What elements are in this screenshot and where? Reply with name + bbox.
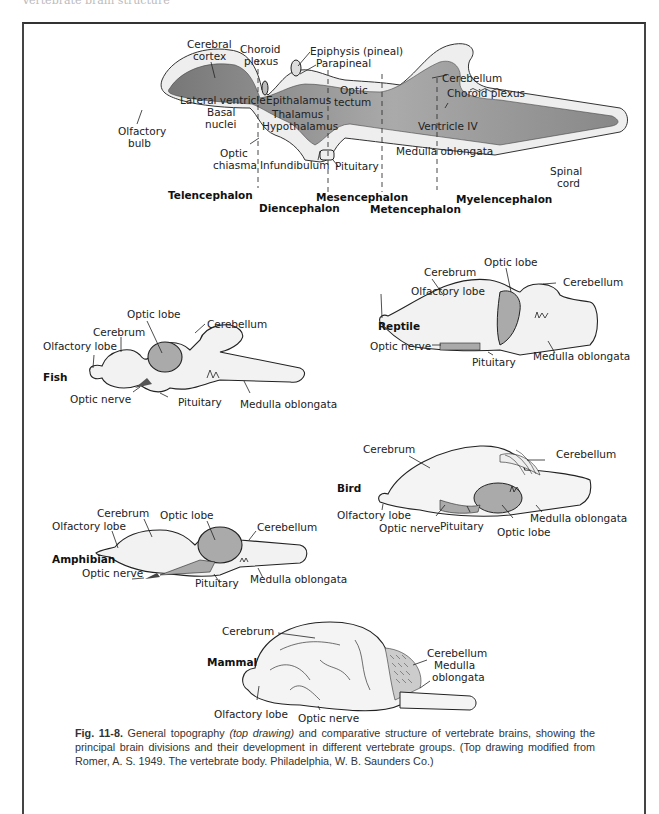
label-epiphysis: Epiphysis (pineal) bbox=[310, 45, 403, 57]
fish-label-cerebrum: Cerebrum bbox=[93, 326, 145, 338]
label-medulla-oblongata: Medulla oblongata bbox=[396, 145, 493, 157]
fish-label-medulla: Medulla oblongata bbox=[240, 398, 337, 410]
bird-brain: Cerebrum Cerebellum Bird Olfactory lobe … bbox=[337, 443, 627, 538]
label-lateral-ventricle: Lateral ventricle bbox=[180, 94, 266, 106]
svg-text:chiasma: chiasma bbox=[213, 159, 257, 171]
bird-label-olfactory-lobe: Olfactory lobe bbox=[337, 509, 411, 521]
svg-text:tectum: tectum bbox=[334, 96, 371, 108]
fish-brain: Optic lobe Cerebrum Cerebellum Olfactory… bbox=[43, 308, 337, 410]
fish-label-olfactory-lobe: Olfactory lobe bbox=[43, 340, 117, 352]
division-telencephalon: Telencephalon bbox=[168, 189, 253, 201]
reptile-label-medulla: Medulla oblongata bbox=[533, 350, 630, 362]
mammal-brain: Cerebrum Mammal Cerebellum Medulla oblon… bbox=[207, 622, 487, 724]
reptile-label-cerebrum: Cerebrum bbox=[424, 266, 476, 278]
label-parapineal: Parapineal bbox=[316, 57, 371, 69]
division-metencephalon: Metencephalon bbox=[370, 203, 461, 215]
fish-label-optic-lobe: Optic lobe bbox=[127, 308, 181, 320]
fish-label-pituitary: Pituitary bbox=[178, 396, 222, 408]
amphibian-title: Amphibian bbox=[52, 553, 115, 565]
mammal-title: Mammal bbox=[207, 656, 257, 668]
reptile-label-pituitary: Pituitary bbox=[472, 356, 516, 368]
svg-text:plexus: plexus bbox=[244, 55, 278, 67]
mammal-label-olfactory-lobe: Olfactory lobe bbox=[214, 708, 288, 720]
label-spinal-cord: Spinal bbox=[550, 165, 582, 177]
amphibian-label-optic-nerve: Optic nerve bbox=[82, 567, 143, 579]
mammal-label-cerebellum: Cerebellum bbox=[427, 647, 487, 659]
svg-text:cord: cord bbox=[557, 177, 580, 189]
label-cerebellum: Cerebellum bbox=[442, 72, 502, 84]
amphibian-label-cerebrum: Cerebrum bbox=[97, 507, 149, 519]
svg-text:bulb: bulb bbox=[128, 137, 151, 149]
bird-label-cerebrum: Cerebrum bbox=[363, 443, 415, 455]
mammal-label-medulla: Medulla bbox=[434, 659, 475, 671]
division-mesencephalon: Mesencephalon bbox=[316, 191, 408, 203]
label-basal-nuclei: Basal bbox=[207, 106, 235, 118]
amphibian-label-optic-lobe: Optic lobe bbox=[160, 509, 214, 521]
amphibian-label-medulla: Medulla oblongata bbox=[250, 573, 347, 585]
division-diencephalon: Diencephalon bbox=[259, 202, 340, 214]
bird-label-cerebellum: Cerebellum bbox=[556, 448, 616, 460]
label-optic-tectum: Optic bbox=[340, 84, 368, 96]
fish-label-cerebellum: Cerebellum bbox=[207, 318, 267, 330]
top-sagittal-brain: Cerebral cortex Choroid plexus Epiphysis… bbox=[118, 38, 628, 215]
reptile-brain: Cerebrum Olfactory lobe Optic lobe Cereb… bbox=[370, 256, 630, 368]
figure-caption: Fig. 11-8. General topography (top drawi… bbox=[75, 726, 595, 768]
mammal-label-optic-nerve: Optic nerve bbox=[298, 712, 359, 724]
amphibian-brain: Cerebrum Optic lobe Olfactory lobe Cereb… bbox=[52, 507, 347, 589]
amphibian-label-pituitary: Pituitary bbox=[195, 577, 239, 589]
fish-label-optic-nerve: Optic nerve bbox=[70, 393, 131, 405]
label-ventricle-iv: Ventricle IV bbox=[418, 120, 478, 132]
bird-title: Bird bbox=[337, 482, 361, 494]
svg-text:nuclei: nuclei bbox=[205, 118, 236, 130]
fish-title: Fish bbox=[43, 371, 68, 383]
mammal-label-cerebrum: Cerebrum bbox=[222, 625, 274, 637]
label-choroid-plexus: Choroid bbox=[240, 43, 281, 55]
reptile-label-optic-nerve: Optic nerve bbox=[370, 340, 431, 352]
reptile-label-optic-lobe: Optic lobe bbox=[484, 256, 538, 268]
label-hypothalamus: Hypothalamus bbox=[262, 120, 338, 132]
bird-label-pituitary: Pituitary bbox=[440, 520, 484, 532]
svg-text:oblongata: oblongata bbox=[432, 671, 485, 683]
division-myelencephalon: Myelencephalon bbox=[456, 193, 552, 205]
reptile-label-olfactory-lobe: Olfactory lobe bbox=[411, 285, 485, 297]
reptile-title: Reptile bbox=[378, 320, 420, 332]
label-thalamus: Thalamus bbox=[271, 108, 323, 120]
label-cerebral-cortex: Cerebral bbox=[187, 38, 232, 50]
figure-number: Fig. 11-8. bbox=[75, 727, 123, 739]
label-infundibulum: Infundibulum bbox=[260, 159, 329, 171]
reptile-label-cerebellum: Cerebellum bbox=[563, 276, 623, 288]
label-epithalamus: Epithalamus bbox=[266, 94, 331, 106]
amphibian-label-cerebellum: Cerebellum bbox=[257, 521, 317, 533]
bird-label-medulla: Medulla oblongata bbox=[530, 512, 627, 524]
amphibian-label-olfactory-lobe: Olfactory lobe bbox=[52, 520, 126, 532]
label-olfactory-bulb: Olfactory bbox=[118, 125, 166, 137]
label-pituitary: Pituitary bbox=[335, 160, 379, 172]
label-choroid-plexus-2: Choroid plexus bbox=[447, 87, 525, 99]
svg-text:cortex: cortex bbox=[193, 50, 226, 62]
bird-label-optic-nerve: Optic nerve bbox=[379, 522, 440, 534]
bird-label-optic-lobe: Optic lobe bbox=[497, 526, 551, 538]
label-optic-chiasma: Optic bbox=[220, 147, 248, 159]
